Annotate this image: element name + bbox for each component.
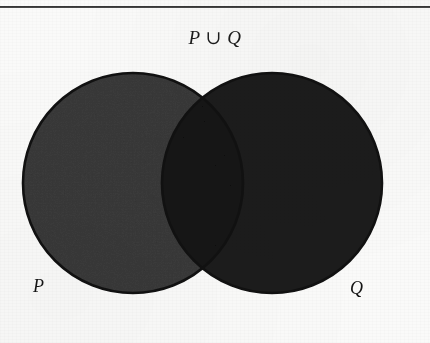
figure-canvas: P ∪ Q (0, 0, 430, 343)
top-horizontal-rule (0, 6, 430, 8)
set-label-q: Q (350, 278, 363, 299)
set-label-p: P (33, 276, 44, 297)
figure-title: P ∪ Q (0, 26, 430, 49)
venn-diagram (0, 0, 430, 343)
